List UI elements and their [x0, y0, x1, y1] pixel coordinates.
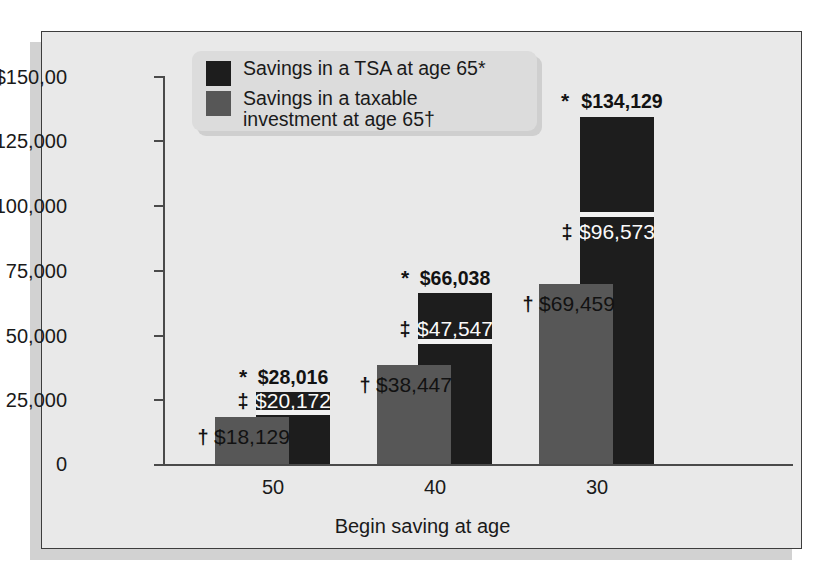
x-axis-title: Begin saving at age [42, 515, 803, 538]
y-tick-label-25000: 25,000 [6, 389, 67, 412]
plot-area: $150,00 125,000 100,000 75,000 50,000 25… [42, 32, 801, 548]
category-label-50: 50 [262, 476, 284, 499]
legend-item-taxable[interactable]: Savings in a taxable investment at age 6… [206, 88, 537, 130]
legend-label-taxable-line2: investment at age 65† [243, 108, 435, 130]
star-marker-age-40: * [401, 266, 409, 290]
legend-swatch-taxable-icon [206, 91, 231, 116]
y-tick-label-125000: 125,000 [0, 130, 67, 153]
divider-after-tax-age-30 [580, 212, 654, 217]
y-tick-label-75000: 75,000 [6, 260, 67, 283]
y-tick-25000 [154, 399, 163, 401]
chart-panel: $150,00 125,000 100,000 75,000 50,000 25… [41, 31, 802, 549]
legend-swatch-tsa-icon [206, 61, 231, 86]
value-label-taxable-age-50: $18,129 [214, 425, 290, 449]
y-tick-label-0: 0 [56, 453, 67, 476]
y-tick-0 [154, 464, 163, 466]
y-tick-75000 [154, 270, 163, 272]
y-tick-125000 [154, 140, 163, 142]
category-label-40: 40 [424, 476, 446, 499]
value-label-tsa-age-40: $66,038 [420, 267, 491, 290]
double-dagger-marker-age-50: ‡ [237, 390, 248, 413]
dagger-marker-age-50: † [197, 426, 208, 449]
value-label-aftertax-age-40: $47,547 [417, 317, 493, 341]
value-label-aftertax-age-50: $20,172 [255, 389, 331, 413]
category-label-30: 30 [586, 476, 608, 499]
dagger-marker-age-40: † [359, 374, 370, 397]
star-marker-age-50: * [239, 365, 247, 389]
y-tick-label-100000: 100,000 [0, 195, 67, 218]
legend-label-taxable-line1: Savings in a taxable [243, 87, 418, 109]
y-tick-label-150000: $150,00 [0, 66, 67, 89]
y-tick-100000 [154, 205, 163, 207]
x-axis-line [163, 464, 793, 466]
value-label-tsa-age-30: $134,129 [581, 90, 662, 113]
value-label-taxable-age-40: $38,447 [376, 373, 452, 397]
value-label-taxable-age-30: $69,459 [539, 292, 615, 316]
double-dagger-marker-age-30: ‡ [561, 221, 572, 244]
legend-box: Savings in a TSA at age 65* Savings in a… [192, 51, 537, 131]
y-tick-label-50000: 50,000 [6, 325, 67, 348]
double-dagger-marker-age-40: ‡ [399, 318, 410, 341]
value-label-aftertax-age-30: $96,573 [579, 220, 655, 244]
value-label-tsa-age-50: $28,016 [258, 366, 329, 389]
y-tick-150000 [154, 76, 163, 78]
y-tick-50000 [154, 335, 163, 337]
legend-item-tsa[interactable]: Savings in a TSA at age 65* [206, 58, 537, 86]
dagger-marker-age-30: † [522, 293, 533, 316]
y-axis-line [163, 76, 165, 466]
star-marker-age-30: * [561, 89, 569, 113]
legend-label-tsa: Savings in a TSA at age 65* [243, 57, 485, 79]
